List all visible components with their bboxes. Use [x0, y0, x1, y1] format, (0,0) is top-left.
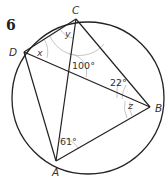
label-c: C	[72, 4, 80, 16]
label-a: A	[51, 166, 59, 178]
angle-61-label: 61°	[60, 136, 77, 147]
question-number: 6	[6, 17, 16, 33]
angle-z-label: z	[127, 100, 134, 111]
label-b: B	[155, 102, 162, 114]
angle-y-label: y	[64, 28, 71, 39]
cyclic-quadrilateral-diagram: 6 C D B A x y 100° 22° z 61°	[0, 0, 168, 179]
label-d: D	[9, 46, 17, 58]
angle-22-label: 22°	[110, 77, 127, 88]
angle-arcs	[44, 29, 132, 149]
edges	[24, 19, 150, 161]
segment-ab	[56, 107, 150, 161]
angle-100-label: 100°	[72, 60, 95, 71]
angle-arc-x	[44, 39, 48, 58]
angle-arc-z-outer	[124, 101, 127, 118]
angle-x-label: x	[36, 47, 43, 58]
angle-arc-c-large	[50, 36, 104, 55]
